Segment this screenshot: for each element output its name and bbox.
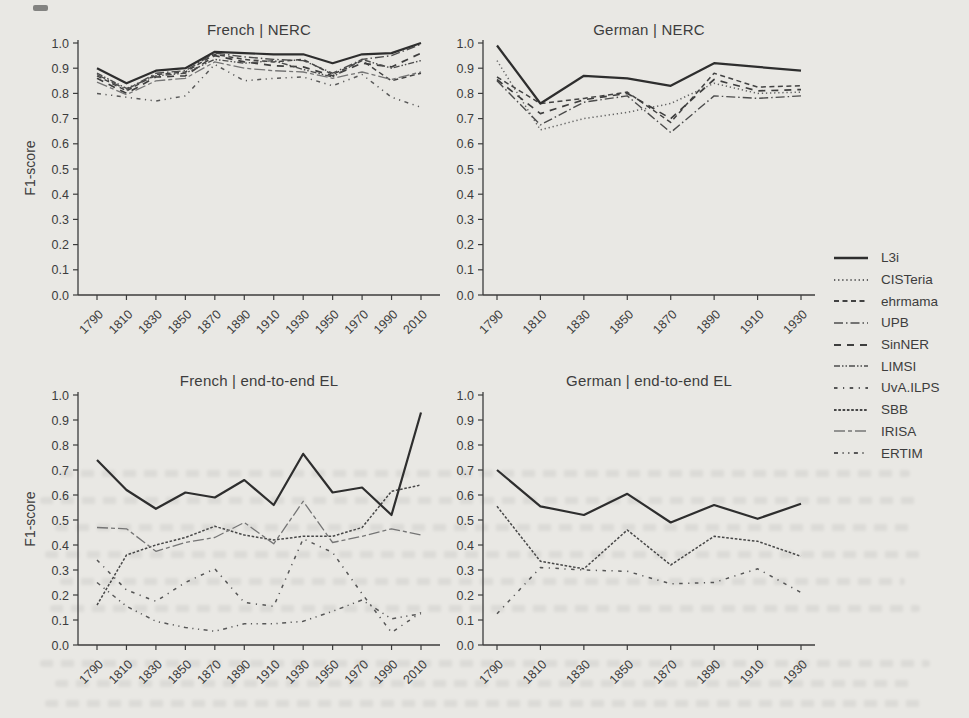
legend-line-sample xyxy=(832,383,870,393)
legend-entry-irisa: IRISA xyxy=(832,421,964,443)
legend-entry-uva-ilps: UvA.ILPS xyxy=(832,377,964,399)
svg-text:2010: 2010 xyxy=(401,657,431,687)
series-line-l3i xyxy=(497,470,801,523)
svg-text:1790: 1790 xyxy=(477,307,507,337)
svg-text:0.8: 0.8 xyxy=(457,87,474,101)
svg-text:0.5: 0.5 xyxy=(457,163,474,177)
svg-text:1850: 1850 xyxy=(607,307,637,337)
legend-label: LIMSI xyxy=(881,359,916,374)
svg-text:1.0: 1.0 xyxy=(52,389,69,403)
charts-canvas: 0.00.10.20.30.40.50.60.70.80.91.01790181… xyxy=(0,0,969,718)
svg-text:1910: 1910 xyxy=(253,657,283,687)
svg-text:1930: 1930 xyxy=(781,657,811,687)
series-line-l3i xyxy=(97,413,421,516)
legend-line-sample xyxy=(832,405,870,415)
series-line-ertim xyxy=(97,64,421,107)
svg-text:0.9: 0.9 xyxy=(457,414,474,428)
svg-text:1910: 1910 xyxy=(253,307,283,337)
legend-label: ERTIM xyxy=(881,446,923,461)
svg-text:1.0: 1.0 xyxy=(457,389,474,403)
legend-entry-ertim: ERTIM xyxy=(832,442,964,464)
svg-text:0.2: 0.2 xyxy=(52,238,69,252)
legend-line-sample xyxy=(832,296,870,306)
svg-text:1810: 1810 xyxy=(106,657,136,687)
svg-text:0.1: 0.1 xyxy=(52,263,69,277)
series-line-sinner xyxy=(97,53,421,93)
series-line-cisteria xyxy=(497,61,801,130)
svg-text:1870: 1870 xyxy=(194,657,224,687)
legend-line-sample xyxy=(832,318,870,328)
series-line-limsi xyxy=(97,59,421,88)
svg-text:1790: 1790 xyxy=(477,657,507,687)
svg-text:1830: 1830 xyxy=(563,307,593,337)
legend-entry-cisteria: CISTeria xyxy=(832,269,964,291)
legend-label: IRISA xyxy=(881,424,916,439)
svg-text:0.1: 0.1 xyxy=(457,614,474,628)
legend-label: SBB xyxy=(881,402,908,417)
svg-text:1970: 1970 xyxy=(342,657,372,687)
svg-text:1910: 1910 xyxy=(737,657,767,687)
svg-text:0.0: 0.0 xyxy=(52,639,69,653)
svg-text:1910: 1910 xyxy=(737,307,767,337)
svg-text:0.7: 0.7 xyxy=(52,464,69,478)
svg-text:1990: 1990 xyxy=(371,657,401,687)
svg-text:0.3: 0.3 xyxy=(52,564,69,578)
svg-text:0.2: 0.2 xyxy=(52,589,69,603)
svg-text:0.5: 0.5 xyxy=(52,514,69,528)
svg-text:0.9: 0.9 xyxy=(457,62,474,76)
chart-title-french-nerc: French | NERC xyxy=(99,21,419,38)
svg-text:1890: 1890 xyxy=(694,307,724,337)
svg-text:1830: 1830 xyxy=(135,657,165,687)
svg-text:1810: 1810 xyxy=(520,307,550,337)
svg-text:0.9: 0.9 xyxy=(52,62,69,76)
svg-text:1950: 1950 xyxy=(312,307,342,337)
legend-label: UvA.ILPS xyxy=(881,380,940,395)
svg-text:1930: 1930 xyxy=(283,657,313,687)
legend-line-sample xyxy=(832,426,870,436)
svg-text:0.3: 0.3 xyxy=(457,213,474,227)
legend-line-sample xyxy=(832,253,870,263)
svg-text:0.6: 0.6 xyxy=(52,137,69,151)
svg-text:1850: 1850 xyxy=(165,307,195,337)
y-axis-label-nerc: F1-score xyxy=(22,123,38,213)
svg-text:0.6: 0.6 xyxy=(457,489,474,503)
svg-text:0.8: 0.8 xyxy=(52,87,69,101)
svg-text:1930: 1930 xyxy=(283,307,313,337)
legend-label: ehrmama xyxy=(881,294,938,309)
svg-text:0.0: 0.0 xyxy=(457,639,474,653)
svg-text:0.5: 0.5 xyxy=(52,163,69,177)
svg-text:1.0: 1.0 xyxy=(52,37,69,51)
series-line-ertim xyxy=(97,583,421,632)
series-line-irisa xyxy=(97,501,421,551)
legend-entry-l3i: L3i xyxy=(832,247,964,269)
svg-text:1810: 1810 xyxy=(106,307,136,337)
svg-text:1790: 1790 xyxy=(77,657,107,687)
svg-text:0.3: 0.3 xyxy=(52,213,69,227)
svg-text:1930: 1930 xyxy=(781,307,811,337)
svg-text:1890: 1890 xyxy=(694,657,724,687)
svg-text:1.0: 1.0 xyxy=(457,37,474,51)
svg-text:0.0: 0.0 xyxy=(457,289,474,303)
series-line-l3i xyxy=(497,46,801,104)
legend-line-sample xyxy=(832,275,870,285)
legend-entry-upb: UPB xyxy=(832,312,964,334)
svg-text:1830: 1830 xyxy=(563,657,593,687)
svg-text:1870: 1870 xyxy=(194,307,224,337)
legend-line-sample xyxy=(832,361,870,371)
svg-text:2010: 2010 xyxy=(401,307,431,337)
series-line-sinner xyxy=(497,80,801,119)
svg-text:1830: 1830 xyxy=(135,307,165,337)
legend-line-sample xyxy=(832,448,870,458)
series-line-uva-ilps xyxy=(497,568,801,614)
scanned-figure-page: 0.00.10.20.30.40.50.60.70.80.91.01790181… xyxy=(0,0,969,718)
svg-text:1890: 1890 xyxy=(224,657,254,687)
svg-text:1870: 1870 xyxy=(650,307,680,337)
svg-text:0.6: 0.6 xyxy=(52,489,69,503)
svg-text:0.1: 0.1 xyxy=(52,614,69,628)
svg-text:0.4: 0.4 xyxy=(457,188,474,202)
svg-text:0.7: 0.7 xyxy=(52,112,69,126)
legend: L3i CISTeria ehrmama UPB SinNER LIMSI Uv… xyxy=(832,247,964,464)
series-line-l3i xyxy=(97,43,421,83)
svg-text:0.7: 0.7 xyxy=(457,464,474,478)
legend-label: CISTeria xyxy=(881,272,933,287)
